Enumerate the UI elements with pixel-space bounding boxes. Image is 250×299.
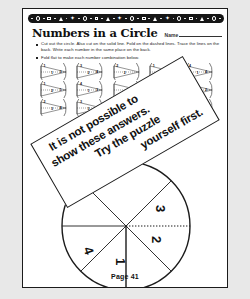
square-icon [47,17,51,21]
fan-number-right: 3 [60,71,62,75]
dot-icon [196,18,198,20]
fan-number-right: 4 [205,71,207,75]
triangle-icon [59,17,63,21]
fan-number-top: 2 [44,101,46,105]
fan-diagram: 22 [112,63,141,80]
page-footer: Page 41 [23,273,227,280]
sector-number: 1 [113,258,128,265]
instructions-list: Cut out the circle. Also cut on the soli… [36,41,224,63]
fan-diagram: 413 [75,81,104,98]
dot-icon [43,18,45,20]
title-row: Numbers in a Circle Name [32,26,222,40]
dot-icon [207,18,209,20]
triangle-icon [106,17,110,21]
instruction-text: Fold flat to make each number combinatio… [41,55,139,61]
worksheet-page: ✦ ✦ ✦ [22,8,228,288]
dot-icon [31,18,33,20]
fan-number-mid: 1 [51,72,53,76]
dot-icon [148,18,150,20]
fan-diagram: 121 [39,81,68,98]
fan-number-top: 3 [80,65,82,69]
fan-number-mid: 2 [51,90,53,94]
instruction-text: Cut out the circle. Also cut on the soli… [41,41,224,53]
sector-number: 2 [149,236,164,243]
fan-number-top: 1 [153,65,155,69]
fan-number-right: 4 [60,107,62,111]
fan-number-top: 3 [80,101,82,105]
circle-icon [212,16,216,20]
name-input-line[interactable] [179,35,222,37]
fan-number-top: 2 [116,65,118,69]
dot-icon [184,18,186,20]
fan-number-mid: 2 [124,72,126,76]
fan-number-mid: 2 [87,72,89,76]
fan-diagram: 113 [39,63,68,80]
instruction-item: Fold flat to make each number combinatio… [36,55,224,61]
dot-icon [78,18,80,20]
dot-icon [173,18,175,20]
fan-number-right: 2 [205,89,207,93]
dot-icon [113,18,115,20]
fan-diagram: 234 [39,99,68,116]
fan-number-mid: 1 [87,90,89,94]
square-icon [189,17,193,21]
fan-diagram: 324 [75,63,104,80]
bullet-icon [36,44,38,46]
dot-icon [137,18,139,20]
dot-icon [219,18,221,20]
star-icon: ✦ [70,16,75,21]
triangle-icon [200,17,204,21]
circle-icon [36,16,40,20]
dot-icon [125,18,127,20]
fan-number-right: 3 [96,89,98,93]
circle-icon [177,16,181,20]
square-icon [142,17,146,21]
square-icon [95,17,99,21]
fan-number-right: 1 [60,89,62,93]
bullet-icon [36,57,38,59]
fan-number-right: 4 [96,71,98,75]
dot-icon [90,18,92,20]
star-icon: ✦ [165,16,170,21]
fan-number-mid: 1 [197,72,199,76]
decorative-motif-row: ✦ ✦ ✦ [28,14,224,23]
fan-number-top: 1 [44,83,46,87]
dot-icon [160,18,162,20]
star-icon: ✦ [117,16,122,21]
fan-number-top: 4 [80,83,82,87]
circle-icon [83,16,87,20]
dot-icon [101,18,103,20]
dot-icon [66,18,68,20]
sector-number: 3 [153,205,168,212]
decorative-border-band: ✦ ✦ ✦ [28,14,224,23]
triangle-icon [153,17,157,21]
fan-number-mid: 3 [51,108,53,112]
name-label: Name [165,32,179,38]
fan-number-top: 1 [44,65,46,69]
page-title: Numbers in a Circle [32,26,158,40]
instruction-item: Cut out the circle. Also cut on the soli… [36,41,224,53]
circle-icon [130,16,134,20]
dot-icon [54,18,56,20]
